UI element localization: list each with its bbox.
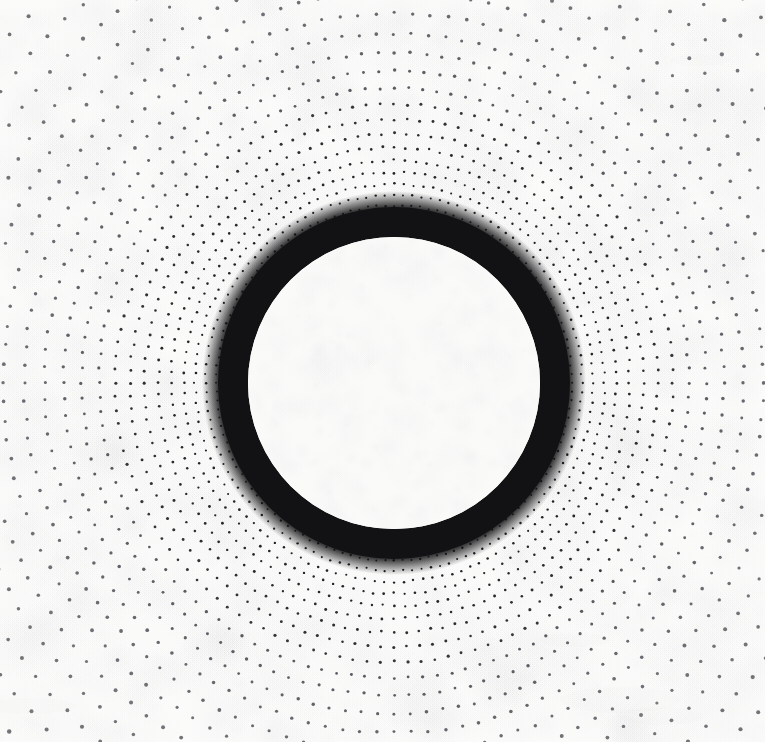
radial-dot-burst-canvas [0,0,765,742]
artwork-stage [0,0,765,742]
